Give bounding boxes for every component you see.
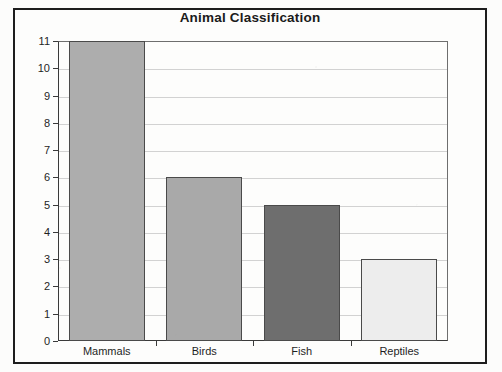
y-axis-tick-label: 4 [28, 227, 50, 237]
chart-page: Animal Classification 01234567891011Mamm… [0, 0, 502, 372]
bar-reptiles [361, 259, 437, 341]
y-axis-tick-mark [53, 286, 58, 287]
y-axis-tick-label: 6 [28, 172, 50, 182]
y-axis-tick-mark [53, 150, 58, 151]
y-axis-tick-label: 2 [28, 281, 50, 291]
x-axis-tick-label: Reptiles [349, 345, 449, 357]
y-axis-tick-label: 10 [28, 63, 50, 73]
bar-birds [166, 177, 242, 341]
y-axis-tick-label: 5 [28, 200, 50, 210]
y-axis-tick-mark [53, 68, 58, 69]
y-axis-tick-label: 9 [28, 91, 50, 101]
y-axis-tick-label: 1 [28, 309, 50, 319]
x-axis-tick-label: Mammals [57, 345, 157, 357]
y-axis-tick-mark [53, 205, 58, 206]
y-axis-tick-label: 11 [28, 36, 50, 46]
y-axis-tick-mark [53, 259, 58, 260]
y-axis-tick-label: 0 [28, 336, 50, 346]
y-axis-tick-mark [53, 314, 58, 315]
y-axis-tick-mark [53, 341, 58, 342]
y-axis-tick-label: 3 [28, 254, 50, 264]
x-axis-tick-label: Birds [154, 345, 254, 357]
y-axis-tick-label: 7 [28, 145, 50, 155]
y-axis-tick-label: 8 [28, 118, 50, 128]
x-axis-tick-label: Fish [252, 345, 352, 357]
y-axis-tick-mark [53, 96, 58, 97]
y-axis-tick-mark [53, 41, 58, 42]
chart-title: Animal Classification [13, 10, 487, 25]
y-axis-tick-mark [53, 123, 58, 124]
y-axis-tick-mark [53, 177, 58, 178]
bar-mammals [69, 41, 145, 341]
y-axis-tick-mark [53, 232, 58, 233]
bar-fish [264, 205, 340, 341]
